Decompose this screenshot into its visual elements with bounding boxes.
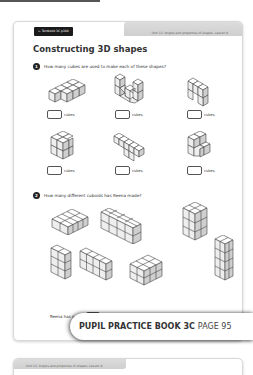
answer-5-unit: cubes — [132, 169, 143, 173]
question-2-number: 2 — [33, 192, 40, 199]
cuboid-e — [78, 247, 114, 281]
shape-2-cubes — [113, 73, 145, 107]
answer-6-unit: cubes — [204, 169, 215, 173]
answer-3-unit: cubes — [204, 113, 215, 117]
answer-5-input[interactable] — [115, 166, 130, 175]
answer-3-input[interactable] — [187, 110, 202, 119]
answer-4-unit: cubes — [64, 169, 75, 173]
cuboid-a — [50, 209, 90, 235]
unit-label: Unit 12: Angles and properties of shapes… — [152, 31, 228, 35]
answer-1: cubes — [47, 110, 75, 119]
book-page-banner: PUPIL PRACTICE BOOK 3C PAGE 95 — [70, 313, 253, 340]
answer-4-input[interactable] — [47, 166, 62, 175]
workbook-page: Unit 12: Angles and properties of shapes… — [13, 21, 243, 341]
textbook-link[interactable]: ← Textbook 3C p108 — [34, 27, 73, 36]
answer-2-input[interactable] — [115, 110, 130, 119]
page-title: Constructing 3D shapes — [33, 44, 147, 54]
answer-1-input[interactable] — [47, 110, 62, 119]
answer-2-unit: cubes — [132, 113, 143, 117]
cuboid-d — [49, 244, 73, 280]
answer-5: cubes — [115, 166, 143, 175]
banner-book-title: PUPIL PRACTICE BOOK 3C — [79, 322, 195, 331]
shape-1-cubes — [47, 79, 87, 105]
shape-4-cubes — [49, 131, 75, 161]
cuboid-g — [213, 235, 235, 281]
cuboid-f — [128, 254, 164, 286]
next-unit-label: Unit 12: Angles and properties of shapes… — [26, 364, 102, 368]
banner-page-label: PAGE 95 — [198, 322, 232, 331]
question-1-number: 1 — [33, 63, 40, 70]
answer-1-unit: cubes — [64, 113, 75, 117]
cuboid-c — [181, 202, 211, 242]
answer-4: cubes — [47, 166, 75, 175]
answer-6-input[interactable] — [187, 166, 202, 175]
cuboid-b — [99, 208, 143, 244]
shape-6-cubes — [186, 131, 212, 161]
answer-6: cubes — [187, 166, 215, 175]
answer-2: cubes — [115, 110, 143, 119]
top-divider — [0, 0, 100, 2]
shape-5-cubes — [112, 133, 148, 163]
shape-3-cubes — [186, 77, 214, 109]
question-1-text: How many cubes are used to make each of … — [44, 64, 166, 69]
next-workbook-page: Unit 12: Angles and properties of shapes… — [13, 358, 243, 375]
question-2-text: How many different cuboids has Reena mad… — [44, 193, 141, 198]
answer-3: cubes — [187, 110, 215, 119]
